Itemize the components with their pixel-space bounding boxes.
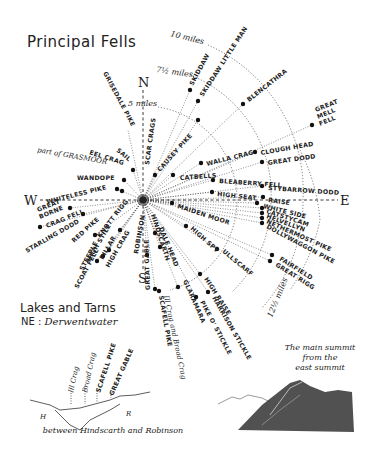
sketch-left-caption: between Hindscarth and Robinson <box>28 426 198 435</box>
compass-north: N <box>138 75 149 90</box>
label-blencathra: BLENCATHRA <box>245 67 288 103</box>
label-wandope: WANDOPE <box>77 174 115 181</box>
lakes-direction: NE : <box>21 316 41 327</box>
summit-cluster <box>137 194 149 206</box>
label-ullscarf: ULLSCARF <box>221 247 255 277</box>
ring-label-7-5: 7½ miles <box>156 65 194 79</box>
label-great-gable: GREAT GABLE <box>142 239 151 290</box>
label-stybarrow-dodd: STYBARROW DODD <box>268 184 340 196</box>
ring-label-12-5: 12½ miles <box>266 276 290 318</box>
ring-label-10: 10 miles <box>170 29 205 46</box>
label-great-dodd: GREAT DODD <box>267 152 316 166</box>
label-high-spy: HIGH SPY <box>189 225 220 254</box>
radial-view-diagram: N S E W 5 miles 7½ miles 10 miles 12½ mi… <box>0 0 371 458</box>
sketch-left-marker-r: R <box>125 410 132 418</box>
label-walla-crag: WALLA CRAG <box>206 148 255 166</box>
label-maiden-moor: MAIDEN MOOR <box>177 202 231 226</box>
sketch-right-caption-line3: east summit <box>270 363 370 373</box>
sketch-right-caption-line1: The main summit <box>270 343 370 353</box>
skyline-sketch-left <box>30 386 150 430</box>
lakes-value: Derwentwater <box>45 316 118 327</box>
label-whiteless-pike: WHITELESS PIKE <box>46 183 108 205</box>
sketch-left-peak-ill-crag: Ill Crag <box>67 365 81 394</box>
sketch-right-caption-line2: from the <box>270 353 370 363</box>
compass-east: E <box>340 193 350 208</box>
sketch-left-marker-h: H <box>39 413 47 421</box>
ring-5-miles <box>158 107 237 290</box>
lakes-and-tarns-line: NE : Derwentwater <box>21 316 117 327</box>
summit-sketch-right <box>218 380 354 432</box>
fell-labels: SKIDDAW SKIDDAW LITTLE MAN BLENCATHRA GR… <box>24 25 340 380</box>
label-causey-pike: CAUSEY PIKE <box>156 132 194 173</box>
lakes-and-tarns-heading: Lakes and Tarns <box>20 301 116 315</box>
label-scar-crags: SCAR CRAGS <box>143 117 157 165</box>
sketch-right-caption: The main summit from the east summit <box>270 343 370 373</box>
ring-label-5: 5 miles <box>128 99 157 108</box>
